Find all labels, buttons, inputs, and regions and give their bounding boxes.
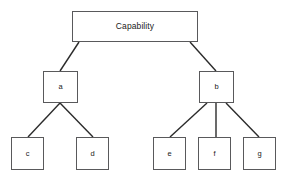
node-c[interactable]: c — [11, 137, 44, 170]
node-a[interactable]: a — [43, 71, 78, 103]
node-e[interactable]: e — [153, 137, 186, 170]
node-f[interactable]: f — [198, 137, 231, 170]
node-label: e — [167, 150, 171, 158]
edge-a-c — [28, 103, 60, 137]
node-b[interactable]: b — [199, 71, 234, 103]
node-g[interactable]: g — [243, 137, 276, 170]
node-label: a — [58, 83, 62, 91]
node-label: Capability — [116, 22, 154, 31]
edge-b-g — [226, 103, 259, 137]
node-label: f — [213, 150, 215, 158]
node-label: g — [257, 150, 261, 158]
edge-root-b — [190, 42, 216, 71]
node-label: b — [214, 83, 218, 91]
diagram-canvas: Capability a b c d e f g — [0, 0, 288, 182]
edge-a-d — [60, 103, 93, 137]
node-label: d — [90, 150, 94, 158]
node-d[interactable]: d — [76, 137, 109, 170]
node-label: c — [26, 150, 30, 158]
edge-b-e — [170, 103, 207, 137]
node-capability[interactable]: Capability — [72, 11, 198, 42]
edge-root-a — [60, 42, 79, 71]
